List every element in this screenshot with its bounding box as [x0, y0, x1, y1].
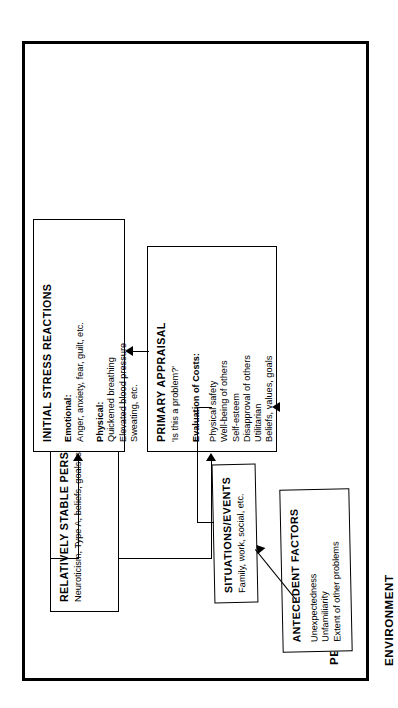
diagram-canvas: PERSON ENVIRONMENT RELATIVELY STABLE PER… [0, 0, 398, 708]
physical-item: Quickened breathing [106, 228, 117, 442]
arrowhead-primary-to-initial [125, 346, 133, 356]
cost-item: Disapproval of others [242, 255, 253, 442]
primary-appraisal-title: PRIMARY APPRAISAL [155, 255, 168, 442]
emotional-item: Anger, anxiety, fear, guilt, etc. [75, 228, 86, 442]
cost-item: Beliefs, values, goals [264, 255, 275, 442]
physical-item: Elevated blood pressure [118, 228, 129, 442]
situations-events-title: SITUATIONS/EVENTS [220, 473, 236, 593]
connector-situations-to-primary-horizontal [197, 407, 198, 523]
situations-events-subtitle: Family, work, social, etc. [235, 473, 249, 593]
connector-stable-to-primary-vertical [119, 558, 212, 559]
spacer [182, 255, 191, 442]
box-primary-appraisal[interactable]: PRIMARY APPRAISAL 'Is this a problem?' E… [147, 246, 277, 452]
cost-item: Well-being of others [219, 255, 230, 442]
cost-item: Self-esteem [231, 255, 242, 442]
box-initial-stress-reactions[interactable]: INITIAL STRESS REACTIONS Emotional: Ange… [33, 219, 125, 452]
connector-stable-to-initial-vertical [50, 558, 79, 559]
connector-situations-to-primary-vertical [198, 407, 212, 408]
connector-primary-to-initial-vertical [133, 351, 149, 352]
spacer [54, 228, 63, 442]
physical-heading: Physical: [95, 228, 107, 442]
box-antecedent-factors[interactable]: ANTECEDENT FACTORS Unexpectedness Unfami… [279, 488, 352, 652]
connector-stable-to-primary-horizontal [211, 460, 212, 559]
emotional-heading: Emotional: [63, 228, 75, 442]
box-situations-events[interactable]: SITUATIONS/EVENTS Family, work, social, … [212, 464, 259, 604]
connector-stable-to-initial-horizontal [78, 460, 79, 559]
cost-item: Utilitarian [253, 255, 264, 442]
initial-stress-reactions-title: INITIAL STRESS REACTIONS [41, 228, 54, 442]
arrowhead-into-primary-appraisal [206, 453, 216, 461]
cost-item: Physical safety [208, 255, 219, 442]
connector-situations-stub [197, 522, 214, 523]
spacer [86, 228, 95, 442]
physical-item: Sweating, etc. [129, 228, 140, 442]
primary-appraisal-question: 'Is this a problem?' [170, 255, 182, 442]
antecedent-item: Extent of other problems [329, 497, 343, 641]
arrowhead-situations-into-primary [272, 402, 280, 412]
arrowhead-into-initial-stress-reactions [73, 453, 83, 461]
diagram-rotation-wrapper: PERSON ENVIRONMENT RELATIVELY STABLE PER… [0, 0, 398, 708]
environment-region-label: ENVIRONMENT [383, 574, 395, 666]
